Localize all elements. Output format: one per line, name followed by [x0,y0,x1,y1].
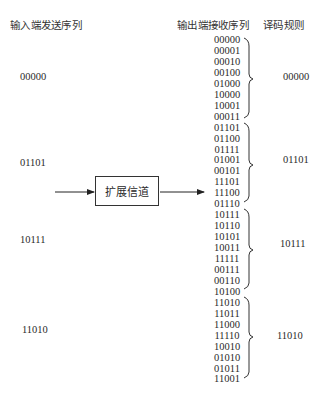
brace-3 [244,209,253,289]
brace-1 [244,38,253,118]
diagram-lines [0,0,325,403]
brace-2 [244,123,253,202]
brace-4 [244,297,253,378]
